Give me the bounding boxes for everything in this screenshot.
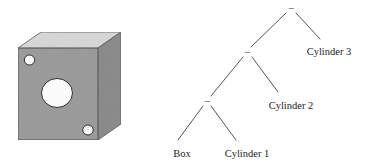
edge-root-to-mid: [251, 13, 286, 47]
edge-low-to-box: [178, 106, 203, 140]
leaf-label-cylinder-2: Cylinder 2: [269, 100, 314, 111]
hole-cylinder-1: [42, 79, 73, 108]
figure-container: − − − Box Cylinder 1 Cylinder 2 Cylinder…: [0, 0, 365, 164]
leaf-label-cylinder-1: Cylinder 1: [225, 148, 270, 159]
leaf-label-box: Box: [173, 148, 191, 159]
solid-model-illustration: [0, 0, 160, 164]
csg-tree-diagram: − − − Box Cylinder 1 Cylinder 2 Cylinder…: [160, 0, 365, 164]
hole-cylinder-3: [83, 125, 93, 135]
node-operator-root: −: [288, 2, 294, 14]
edge-mid-to-cylinder-2: [252, 57, 278, 92]
box-side-face: [98, 32, 121, 140]
node-operator-low: −: [204, 95, 210, 107]
edge-root-to-cylinder-3: [296, 13, 320, 39]
hole-cylinder-2: [24, 55, 34, 65]
edge-mid-to-low: [211, 57, 243, 96]
leaf-label-cylinder-3: Cylinder 3: [307, 46, 352, 57]
node-operator-mid: −: [244, 46, 250, 58]
figure-panel: − − − Box Cylinder 1 Cylinder 2 Cylinder…: [0, 0, 365, 164]
edge-low-to-cylinder-1: [211, 106, 236, 140]
